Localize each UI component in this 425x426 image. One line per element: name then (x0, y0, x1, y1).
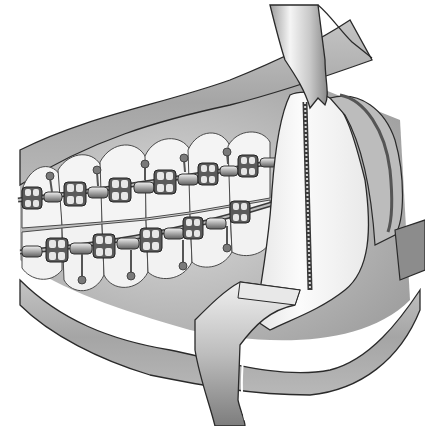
side-retractor (395, 220, 425, 280)
surgical-illustration (0, 0, 425, 426)
illustration-canvas (0, 0, 425, 426)
